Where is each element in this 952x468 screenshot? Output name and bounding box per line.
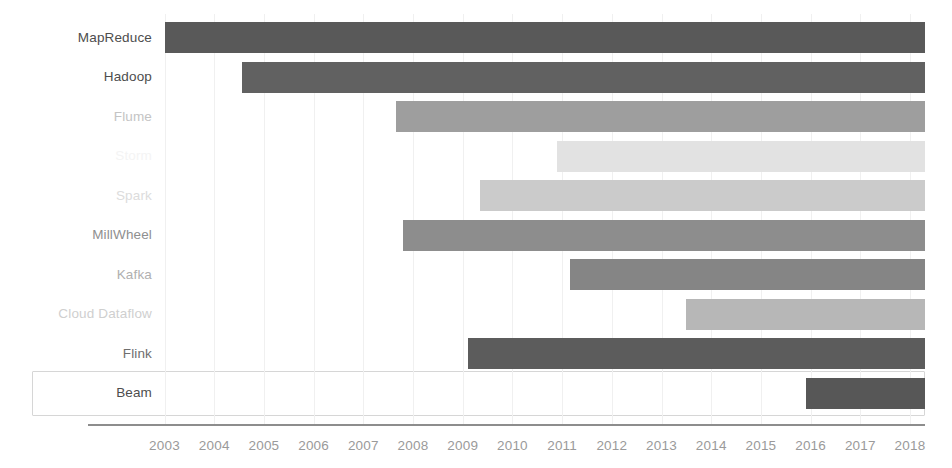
tick-label-2014: 2014 [696,439,727,453]
timeline-chart: MapReduceHadoopFlumeStormSparkMillWheelK… [0,0,952,468]
tick-label-2010: 2010 [497,439,528,453]
row-label-hadoop: Hadoop [104,70,152,84]
bar-millwheel[interactable] [403,220,925,251]
category-axis-labels: MapReduceHadoopFlumeStormSparkMillWheelK… [0,0,152,468]
tick-label-2004: 2004 [199,439,230,453]
bar-hadoop[interactable] [242,62,925,93]
x-axis-line [88,424,925,426]
bar-beam[interactable] [806,378,925,409]
row-label-flume: Flume [114,110,152,124]
bar-flink[interactable] [468,338,925,369]
tick-label-2005: 2005 [248,439,279,453]
tick-label-2018: 2018 [895,439,926,453]
tick-label-2009: 2009 [447,439,478,453]
tick-label-2013: 2013 [646,439,677,453]
beam-highlight-box [32,371,925,416]
gridline-2003 [165,14,166,424]
row-label-cloud-dataflow: Cloud Dataflow [58,307,152,321]
tick-label-2011: 2011 [547,439,577,453]
row-label-kafka: Kafka [117,268,152,282]
tick-label-2012: 2012 [596,439,627,453]
row-label-millwheel: MillWheel [92,228,152,242]
tick-label-2017: 2017 [845,439,876,453]
bar-kafka[interactable] [570,259,925,290]
row-label-beam: Beam [116,386,152,400]
tick-label-2006: 2006 [298,439,329,453]
tick-label-2008: 2008 [398,439,429,453]
tick-label-2015: 2015 [745,439,776,453]
bar-spark[interactable] [480,180,925,211]
row-label-spark: Spark [116,189,152,203]
tick-label-2007: 2007 [348,439,379,453]
row-label-flink: Flink [123,347,152,361]
row-label-mapreduce: MapReduce [78,31,152,45]
gridline-2004 [214,14,215,424]
tick-label-2016: 2016 [795,439,826,453]
row-label-storm: Storm [115,149,152,163]
bar-storm[interactable] [557,141,925,172]
bar-cloud-dataflow[interactable] [686,299,925,330]
bar-mapreduce[interactable] [165,22,925,53]
bar-flume[interactable] [396,101,925,132]
tick-label-2003: 2003 [149,439,180,453]
